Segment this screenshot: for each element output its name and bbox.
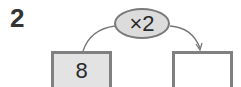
operation-oval: ×2	[114, 8, 170, 39]
input-value: 8	[75, 58, 87, 84]
left-connector-curve	[83, 26, 115, 51]
answer-box[interactable]	[172, 51, 233, 87]
input-box: 8	[51, 51, 112, 87]
operation-label: ×2	[129, 11, 154, 37]
right-connector-curve	[170, 26, 200, 48]
